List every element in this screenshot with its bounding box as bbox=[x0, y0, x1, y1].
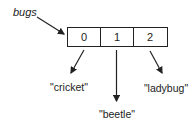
element-1-value: "beetle" bbox=[99, 108, 135, 120]
array-box: 0 1 2 bbox=[68, 28, 168, 47]
array-reference-diagram: bugs 0 1 2 "cricket" "beetle" "ladybug" bbox=[0, 0, 196, 127]
element-0-arrow bbox=[71, 50, 84, 73]
array-index-2: 2 bbox=[147, 31, 153, 43]
array-index-0: 0 bbox=[81, 31, 87, 43]
element-0-value: "cricket" bbox=[50, 81, 88, 93]
array-index-1: 1 bbox=[114, 31, 120, 43]
element-2-value: "ladybug" bbox=[144, 82, 189, 94]
variable-label: bugs bbox=[13, 6, 37, 18]
variable-reference-arrow bbox=[37, 17, 64, 34]
element-2-arrow bbox=[150, 51, 162, 73]
